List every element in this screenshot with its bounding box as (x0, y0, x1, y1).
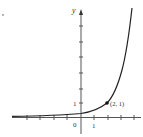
y-axis (79, 9, 83, 134)
point-marker (105, 101, 109, 105)
origin-label: 0 (73, 121, 77, 129)
y-axis-label: y (71, 6, 76, 15)
point-label: (2, 1) (110, 100, 124, 108)
stray-dot (2, 14, 4, 16)
exponential-graph: y 1 0 1 (2, 1) (0, 0, 143, 137)
x-tick-label-1: 1 (92, 122, 96, 130)
y-tick-label-1: 1 (73, 100, 77, 108)
